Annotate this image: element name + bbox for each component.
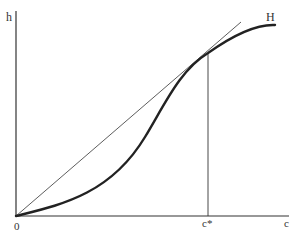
tangent-line	[16, 22, 241, 216]
c-star-label: c*	[202, 217, 212, 229]
x-axis-label: c	[284, 217, 289, 229]
origin-label: 0	[14, 220, 20, 232]
diagram-canvas: h H 0 c* c	[0, 0, 299, 240]
y-axis-label: h	[6, 10, 12, 24]
curve-label: H	[266, 10, 275, 24]
curve-h	[16, 25, 275, 216]
